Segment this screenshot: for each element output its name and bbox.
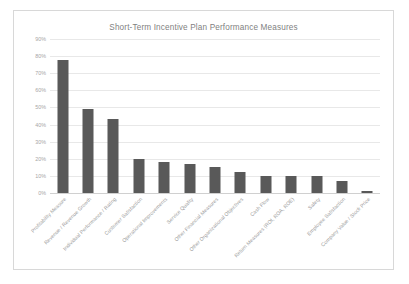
bar[interactable] [159, 162, 170, 193]
bar[interactable] [260, 176, 271, 193]
bar-slot: Company Value / Stock Price [355, 39, 380, 193]
bar[interactable] [57, 60, 68, 193]
y-axis-tick-label: 10% [35, 173, 46, 179]
x-axis-category-label: Safety [306, 196, 321, 211]
bar[interactable] [362, 191, 373, 193]
x-axis-category-label: Revenue / Revenue Growth [43, 196, 93, 246]
y-axis-tick-label: 40% [35, 122, 46, 128]
bar-slot: Customer Satisfaction [126, 39, 151, 193]
y-axis-tick-label: 20% [35, 156, 46, 162]
bar[interactable] [83, 109, 94, 193]
bar[interactable] [311, 176, 322, 193]
x-axis-category-label: Operational Improvements [121, 196, 169, 244]
bar-slot: Safety [304, 39, 329, 193]
bar-slot: Other Financial Measures [202, 39, 227, 193]
bar-slot: Individual Performance / Rating [101, 39, 126, 193]
bar[interactable] [184, 164, 195, 193]
bar[interactable] [286, 176, 297, 193]
y-axis-tick-label: 70% [35, 70, 46, 76]
x-axis-category-label: Cash Flow [248, 196, 270, 218]
bar[interactable] [133, 159, 144, 193]
gridline-0 [50, 193, 380, 194]
y-axis-tick-label: 50% [35, 104, 46, 110]
y-axis-tick-label: 0% [38, 190, 46, 196]
bar-slot: Other Organizational Objectives [228, 39, 253, 193]
plot-area: 90%80%70%60%50%40%30%20%10%0% Profitabil… [50, 39, 380, 193]
y-axis-tick-label: 60% [35, 87, 46, 93]
bar[interactable] [108, 119, 119, 193]
y-axis-tick-label: 90% [35, 36, 46, 42]
bar[interactable] [235, 172, 246, 193]
bar-slot: Profitability Measure [50, 39, 75, 193]
x-axis-category-label: Other Financial Measures [173, 196, 219, 242]
chart-title: Short-Term Incentive Plan Performance Me… [14, 23, 393, 32]
x-axis-category-label: Company Value / Stock Price [320, 196, 372, 248]
bar-slot: Operational Improvements [152, 39, 177, 193]
x-axis-category-label: Other Organizational Objectives [188, 196, 244, 252]
bar-slot: Employee Satisfaction [329, 39, 354, 193]
bar-slot: Return Measures (ROI, ROA, ROE) [278, 39, 303, 193]
bar-slot: Service Quality [177, 39, 202, 193]
y-axis-tick-label: 80% [35, 53, 46, 59]
bar-series: Profitability MeasureRevenue / Revenue G… [50, 39, 380, 193]
bar[interactable] [336, 181, 347, 193]
y-axis-tick-label: 30% [35, 139, 46, 145]
bar[interactable] [209, 167, 220, 193]
chart-card: Short-Term Incentive Plan Performance Me… [13, 10, 394, 270]
bar-slot: Cash Flow [253, 39, 278, 193]
bar-slot: Revenue / Revenue Growth [75, 39, 100, 193]
